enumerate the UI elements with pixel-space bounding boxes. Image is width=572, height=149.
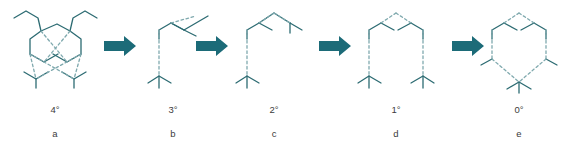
arrow-glyph-2 <box>196 36 228 56</box>
chain-a-left-arm <box>30 31 41 54</box>
arrow-d-to-e <box>452 36 484 56</box>
chain-e-upper-right-branch <box>521 23 534 30</box>
arrow-a-to-b <box>104 36 136 56</box>
dashed-e-bottom-left <box>492 59 519 82</box>
dashed-e-bottom-right <box>519 59 546 82</box>
structure-e-dashed-bonds <box>492 13 546 82</box>
chain-e-upper-left <box>492 23 504 39</box>
chain-e-upper-right <box>534 23 546 39</box>
structure-b-dashed-bonds <box>159 16 196 76</box>
chain-d-right-branch <box>398 23 411 30</box>
chain-d-left-upper <box>369 23 381 39</box>
chain-c-right-branch <box>290 23 302 30</box>
dashed-e-apex-left <box>504 13 519 23</box>
structure-a <box>14 11 97 88</box>
reaction-scheme-figure: 4° 3° 2° 1° 0° a b c d e <box>0 0 572 149</box>
chain-c-apex <box>259 13 290 23</box>
chain-b-methyl <box>184 30 196 36</box>
structure-c-dashed-bonds <box>247 13 290 76</box>
chain-a-bottom-right-tbu <box>62 72 86 79</box>
chain-c-left-branch <box>259 23 272 30</box>
dashed-d-apex-left <box>381 13 396 23</box>
scheme-drawing <box>0 0 572 149</box>
chain-b-branch <box>171 23 184 30</box>
structure-d-dashed-bonds <box>369 13 423 76</box>
chain-a-top-right <box>70 11 97 31</box>
chain-c-left-upper <box>247 23 259 39</box>
dashed-d-apex-right <box>396 13 411 23</box>
chain-e-left-methyl <box>481 59 492 65</box>
arrow-b-to-c <box>196 36 228 56</box>
dashed-a-cross-1 <box>41 31 67 62</box>
arrow-glyph-1 <box>104 36 136 56</box>
arrow-glyph-3 <box>319 36 351 56</box>
chain-a-right-arm <box>70 31 81 54</box>
chain-e-right-methyl <box>546 59 557 65</box>
chain-a-bottom-left-tbu <box>24 72 48 79</box>
chain-a-top-mid <box>41 24 70 31</box>
dashed-a-left-vertical <box>30 54 36 79</box>
chain-d-right-upper <box>411 23 423 39</box>
chain-b-top-chain <box>171 16 208 30</box>
chain-d-left-branch <box>381 23 394 30</box>
dashed-a-cross-2 <box>44 31 70 62</box>
chain-a-top-left <box>14 11 41 31</box>
dashed-b-top <box>171 16 196 23</box>
chain-b-left-upper <box>159 23 171 39</box>
arrow-glyph-4 <box>452 36 484 56</box>
structure-b <box>148 16 208 88</box>
structure-c <box>236 13 302 88</box>
chain-e-upper-left-branch <box>504 23 517 30</box>
arrow-c-to-d <box>319 36 351 56</box>
dashed-e-apex-right <box>519 13 534 23</box>
